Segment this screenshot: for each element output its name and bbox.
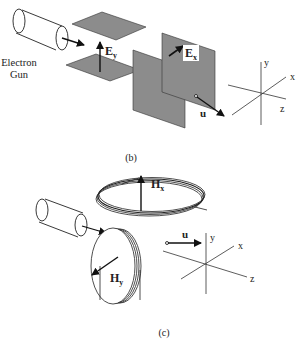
figure-b-electric-deflection: Ey Ex u y x z Electron Gun (b) bbox=[1, 9, 295, 164]
velocity-label-c: u bbox=[182, 228, 188, 240]
electron-gun-icon-c bbox=[36, 199, 87, 237]
vertical-coil bbox=[91, 228, 141, 304]
caption-c: (c) bbox=[158, 327, 169, 339]
axis-y-label: y bbox=[264, 57, 269, 68]
axes-icon-c bbox=[163, 233, 247, 294]
caption-b: (b) bbox=[125, 152, 137, 164]
axes-icon bbox=[228, 62, 286, 125]
electron-gun-icon bbox=[13, 9, 68, 50]
velocity-label: u bbox=[200, 107, 206, 119]
figure-c-magnetic-deflection: Hx Hy u y x z bbox=[36, 176, 255, 339]
ey-label: Ey bbox=[105, 44, 117, 60]
electron-gun-label-2: Gun bbox=[10, 69, 29, 80]
axis-z-label: z bbox=[280, 103, 285, 114]
axis-y-label-c: y bbox=[210, 232, 215, 243]
electron-gun-label: Electron bbox=[1, 57, 37, 68]
axis-z-label-c: z bbox=[250, 273, 255, 284]
axis-x-label: x bbox=[290, 71, 295, 82]
upper-y-plate bbox=[72, 12, 146, 40]
axis-x-label-c: x bbox=[238, 240, 243, 251]
deflection-diagram: Ey Ex u y x z Electron Gun (b) bbox=[0, 0, 308, 351]
lower-y-plate bbox=[66, 54, 140, 81]
